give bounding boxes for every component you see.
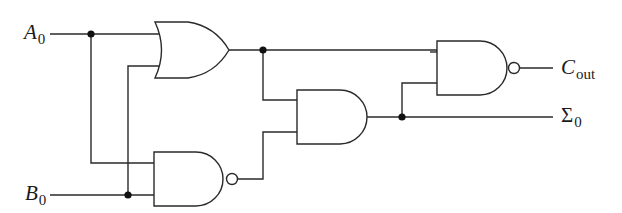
output-sigma0-name: Σ [561, 103, 573, 127]
junction-dot-b0 [124, 191, 131, 198]
input-label-b0: B0 [25, 183, 46, 208]
junction-dot-a0 [87, 30, 94, 37]
wire-a0 [50, 34, 160, 163]
nand-gate-bottom [154, 152, 238, 206]
output-label-sigma0: Σ0 [561, 105, 582, 130]
wire-nand-bottom-out [238, 132, 298, 179]
wire-b0 [50, 66, 160, 195]
input-a0-name: A [24, 20, 37, 44]
output-cout-name: C [561, 55, 575, 79]
input-b0-subscript: 0 [39, 192, 47, 208]
nand-gate-right [430, 41, 520, 95]
output-sigma0-subscript: 0 [574, 114, 582, 130]
input-label-a0: A0 [24, 22, 45, 47]
logic-circuit-diagram [0, 0, 622, 213]
input-a0-subscript: 0 [38, 31, 46, 47]
junction-dot-and-out [398, 113, 405, 120]
nand-right-inversion-bubble [509, 63, 520, 74]
output-label-cout: Cout [561, 57, 595, 82]
or-gate [155, 22, 229, 78]
nand-bottom-inversion-bubble [227, 174, 238, 185]
and-gate [297, 90, 367, 144]
output-cout-subscript: out [576, 66, 595, 82]
junction-dot-or-out [259, 46, 266, 53]
input-b0-name: B [25, 181, 38, 205]
